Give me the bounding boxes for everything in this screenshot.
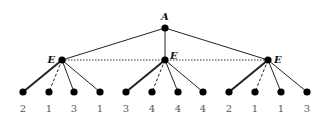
leaf-node — [277, 88, 284, 95]
leaf-node — [174, 88, 181, 95]
leaf-node — [199, 88, 206, 95]
leaf-payoff-label: 1 — [46, 103, 52, 114]
leaf-payoff-label: 4 — [149, 103, 155, 114]
root-edge-2 — [165, 28, 268, 60]
game-tree-diagram: AE2131E3444E2113 — [0, 0, 331, 121]
decision-node — [264, 56, 271, 63]
leaf-node — [45, 88, 52, 95]
root-node-label: A — [160, 11, 169, 22]
decision-node-label: E — [273, 54, 282, 65]
leaf-payoff-label: 3 — [304, 103, 310, 114]
leaf-node — [251, 88, 258, 95]
branch-edge-thick — [126, 60, 165, 92]
decision-node — [161, 56, 168, 63]
branch-edge-thick — [229, 60, 268, 92]
decision-node — [58, 56, 65, 63]
leaf-payoff-label: 2 — [226, 103, 232, 114]
leaf-payoff-label: 3 — [71, 103, 77, 114]
branch-edge-thin — [165, 60, 178, 92]
leaf-node — [96, 88, 103, 95]
leaf-payoff-label: 1 — [278, 103, 284, 114]
leaf-node — [19, 88, 26, 95]
leaf-payoff-label: 4 — [175, 103, 181, 114]
branch-edge-thick — [23, 60, 62, 92]
root-node — [161, 24, 168, 31]
leaf-node — [225, 88, 232, 95]
branch-edge-thin — [165, 60, 203, 92]
leaf-node — [148, 88, 155, 95]
leaf-node — [303, 88, 310, 95]
leaf-payoff-label: 3 — [123, 103, 129, 114]
leaf-node — [122, 88, 129, 95]
root-edge-0 — [62, 28, 165, 60]
leaf-payoff-label: 2 — [20, 103, 26, 114]
decision-node-label: E — [169, 50, 178, 61]
leaf-payoff-label: 1 — [97, 103, 103, 114]
decision-node-label: E — [46, 54, 55, 65]
leaf-payoff-label: 4 — [200, 103, 206, 114]
leaf-payoff-label: 1 — [252, 103, 258, 114]
leaf-node — [70, 88, 77, 95]
